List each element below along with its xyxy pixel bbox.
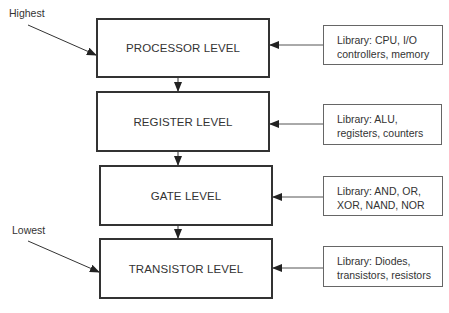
gate-level-box: GATE LEVEL (99, 165, 273, 226)
library-text-line: transistors, resistors (337, 268, 442, 282)
processor-level-box: PROCESSOR LEVEL (96, 18, 270, 78)
library-text-line: Library: AND, OR, (337, 184, 442, 198)
library-text-line: controllers, memory (337, 47, 442, 61)
level-name: TRANSISTOR LEVEL (129, 263, 244, 275)
transistor-level-box: TRANSISTOR LEVEL (99, 238, 273, 299)
register-library-box: Library: ALU, registers, counters (323, 104, 442, 145)
level-name: PROCESSOR LEVEL (126, 42, 240, 54)
library-text-line: registers, counters (337, 126, 441, 140)
level-name: GATE LEVEL (151, 190, 221, 202)
level-name: REGISTER LEVEL (133, 116, 232, 128)
lowest-label: Lowest (12, 224, 45, 236)
library-text-line: Library: ALU, (337, 112, 441, 126)
gate-library-box: Library: AND, OR, XOR, NAND, NOR (323, 176, 443, 216)
library-text-line: Library: CPU, I/O (337, 33, 442, 47)
library-text-line: Library: Diodes, (337, 254, 442, 268)
processor-library-box: Library: CPU, I/O controllers, memory (323, 25, 443, 65)
highest-label: Highest (9, 7, 45, 19)
library-text-line: XOR, NAND, NOR (337, 198, 442, 212)
register-level-box: REGISTER LEVEL (96, 91, 270, 152)
transistor-library-box: Library: Diodes, transistors, resistors (323, 246, 443, 287)
